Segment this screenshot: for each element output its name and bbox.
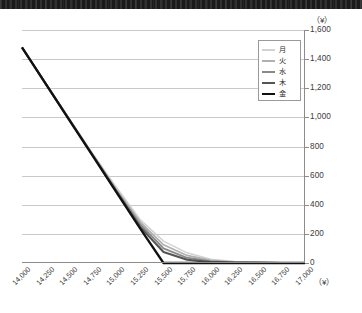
- x-axis-tick-label: 15,250: [128, 265, 150, 287]
- y-axis-tick: [305, 117, 309, 118]
- band-texture: [0, 0, 362, 9]
- legend-label: 木: [279, 77, 286, 88]
- legend-label: 火: [279, 55, 286, 66]
- x-axis-line: [22, 262, 305, 263]
- y-axis-tick-label: 600: [310, 171, 324, 180]
- legend-item: 水: [259, 66, 300, 77]
- y-axis-tick-label: 400: [310, 200, 324, 209]
- legend-swatch-icon: [262, 60, 275, 62]
- x-axis-tick-label: 15,500: [152, 265, 174, 287]
- y-axis-tick-label: 800: [310, 142, 324, 151]
- y-axis-tick: [305, 234, 309, 235]
- x-axis-tick-label: 14,500: [57, 265, 79, 287]
- y-axis-tick-label: 1,400: [310, 54, 331, 63]
- legend-label: 水: [279, 66, 286, 77]
- cropped-top-band: [0, 0, 362, 9]
- legend-swatch-icon: [262, 82, 275, 84]
- legend-item: 木: [259, 77, 300, 88]
- y-axis-tick: [305, 176, 309, 177]
- y-axis-tick: [305, 88, 309, 89]
- x-axis-tick-label: 15,000: [105, 265, 127, 287]
- x-axis-tick-label: 16,000: [199, 265, 221, 287]
- legend-item: 金: [259, 88, 300, 99]
- y-axis-unit-label: （¥）: [312, 14, 332, 25]
- x-axis-tick-label: 15,750: [175, 265, 197, 287]
- x-axis-tick-label: 14,750: [81, 265, 103, 287]
- legend-swatch-icon: [262, 49, 275, 51]
- y-axis-tick: [305, 59, 309, 60]
- x-axis-tick-label: 14,250: [34, 265, 56, 287]
- legend-item: 月: [259, 44, 300, 55]
- x-axis-unit-label: （¥）: [314, 276, 334, 287]
- x-axis-tick-label: 16,250: [222, 265, 244, 287]
- legend-label: 金: [279, 88, 286, 99]
- y-axis-tick: [305, 30, 309, 31]
- legend-label: 月: [279, 44, 286, 55]
- y-axis-tick: [305, 147, 309, 148]
- chart-screenshot: （¥） （¥） 1,6001,4001,2001,000800600400200…: [0, 0, 362, 313]
- y-axis-tick-label: 1,200: [310, 83, 331, 92]
- y-axis-tick-label: 0: [310, 258, 315, 267]
- x-axis-tick-label: 16,500: [246, 265, 268, 287]
- y-axis-tick: [305, 205, 309, 206]
- y-axis-tick-label: 200: [310, 229, 324, 238]
- legend-item: 火: [259, 55, 300, 66]
- x-axis-tick-label: 14,000: [10, 265, 32, 287]
- x-axis-tick-label: 17,000: [293, 265, 315, 287]
- y-axis-tick-label: 1,000: [310, 112, 331, 121]
- legend-swatch-icon: [262, 93, 275, 95]
- legend-swatch-icon: [262, 71, 275, 73]
- x-axis-tick-label: 16,750: [270, 265, 292, 287]
- y-axis-tick-label: 1,600: [310, 25, 331, 34]
- chart-legend: 月火水木金: [258, 40, 301, 101]
- x-axis-tick-labels: 14,00014,25014,50014,75015,00015,25015,5…: [22, 265, 305, 311]
